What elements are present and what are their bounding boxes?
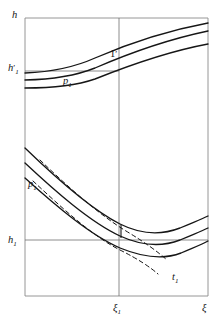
lower-dashed-curve-lower [33,181,158,274]
x-axis-label: ξ [202,302,207,314]
technical-diagram: h h′1 h1 p1 1′ p1 t1 ξ1 ξ [0,0,218,321]
h1-axis-value: h1 [8,234,17,248]
lower-curve-middle [25,163,208,245]
h-prime-1-axis-value: h′1 [8,62,19,76]
lower-dashed-curve-upper [40,160,167,260]
y-axis-label: h [12,9,17,20]
x-tick-label-xi1: ξ1 [113,302,121,316]
diagram-canvas: h h′1 h1 p1 1′ p1 t1 ξ1 ξ [0,0,218,321]
lower-curve-top [25,148,208,233]
lower-curve-family-label: p1 [27,178,37,192]
lower-curve-branch-label: t1 [172,271,178,285]
upper-curve-top [25,23,208,73]
lower-curve-bottom [25,178,208,257]
upper-curve-branch-label: 1′ [110,48,117,59]
